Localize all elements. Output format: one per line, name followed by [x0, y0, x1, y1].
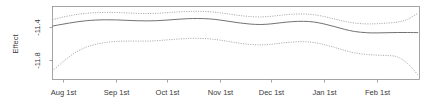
x-tick-label-3: Oct 1st: [156, 88, 181, 97]
y-tick-label-2: -11.8: [33, 52, 42, 69]
x-tick-label-5: Dec 1st: [259, 88, 285, 97]
y-axis-title: Effect: [11, 34, 20, 54]
x-tick-label-6: Jan 1st: [312, 88, 337, 97]
y-tick-label-1: -11.4: [33, 19, 42, 36]
x-tick-label-4: Nov 1st: [208, 88, 234, 97]
effect-smooth-chart: Effect -11.4 -11.8 Aug 1st Sep 1st Oct 1…: [0, 0, 440, 108]
plot-svg: Effect -11.4 -11.8 Aug 1st Sep 1st Oct 1…: [0, 0, 440, 108]
x-tick-label-1: Aug 1st: [51, 88, 77, 97]
x-tick-label-7: Feb 1st: [365, 88, 391, 97]
x-tick-label-2: Sep 1st: [104, 88, 130, 97]
